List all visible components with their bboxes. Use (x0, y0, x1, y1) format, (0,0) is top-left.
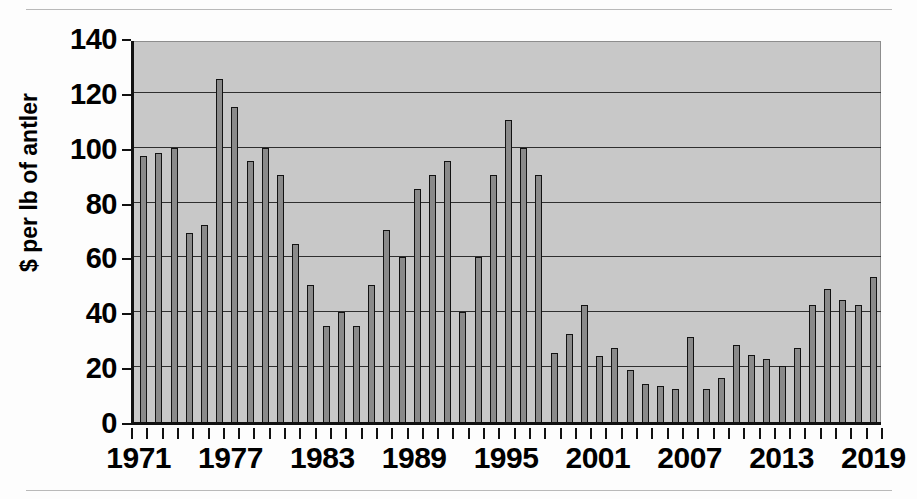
x-tick (529, 428, 531, 439)
bar[interactable] (277, 175, 284, 422)
bar[interactable] (186, 233, 193, 422)
y-tick-140 (122, 39, 131, 41)
bar-slot (318, 41, 333, 422)
bar[interactable] (566, 334, 573, 422)
x-axis-labels: 197119771983198919952001200720132019 (131, 441, 881, 485)
bar[interactable] (748, 355, 755, 422)
bar[interactable] (855, 305, 862, 422)
bar[interactable] (414, 189, 421, 422)
x-tick (361, 428, 363, 439)
bar[interactable] (611, 348, 618, 422)
x-tick (866, 428, 868, 439)
bar-slot (546, 41, 561, 422)
bar[interactable] (581, 305, 588, 422)
bar[interactable] (794, 348, 801, 422)
bar[interactable] (383, 230, 390, 422)
x-tick (131, 428, 133, 439)
bar[interactable] (596, 356, 603, 422)
bar[interactable] (763, 359, 770, 422)
bar[interactable] (824, 289, 831, 422)
bar[interactable] (672, 389, 679, 422)
bar[interactable] (870, 277, 877, 422)
bar[interactable] (262, 148, 269, 422)
bar-slot (151, 41, 166, 422)
bar[interactable] (247, 161, 254, 422)
x-tick (437, 428, 439, 439)
bar[interactable] (809, 305, 816, 422)
x-tick (514, 428, 516, 439)
bar[interactable] (444, 161, 451, 422)
x-tick (881, 428, 883, 439)
bar[interactable] (718, 378, 725, 422)
bar-slot (212, 41, 227, 422)
bar-slot (486, 41, 501, 422)
bar[interactable] (627, 370, 634, 422)
bar[interactable] (353, 326, 360, 422)
bar[interactable] (687, 337, 694, 422)
bar-slot (197, 41, 212, 422)
bar-slot (501, 41, 516, 422)
bar[interactable] (338, 312, 345, 422)
bar[interactable] (368, 285, 375, 422)
x-tick-label-2001: 2001 (565, 441, 630, 475)
bar[interactable] (490, 175, 497, 422)
bar-slot (699, 41, 714, 422)
bar-slot (516, 41, 531, 422)
bar[interactable] (535, 175, 542, 422)
bar-slot (349, 41, 364, 422)
bar-slot (638, 41, 653, 422)
bar[interactable] (703, 389, 710, 422)
bar[interactable] (216, 79, 223, 422)
bar[interactable] (429, 175, 436, 422)
bar[interactable] (642, 384, 649, 422)
bar-slot (379, 41, 394, 422)
y-tick-60 (122, 258, 131, 260)
bar[interactable] (733, 345, 740, 422)
x-tick-label-2019: 2019 (841, 441, 906, 475)
bar[interactable] (657, 386, 664, 422)
x-tick-label-2013: 2013 (749, 441, 814, 475)
y-tick-label-80: 80 (86, 188, 117, 221)
bar[interactable] (839, 300, 846, 422)
x-tick-label-1983: 1983 (290, 441, 355, 475)
x-tick (162, 428, 164, 439)
chart-screenshot: $ per lb of antler 020406080100120140 19… (0, 0, 917, 499)
x-tick (575, 428, 577, 439)
x-tick (483, 428, 485, 439)
bar[interactable] (551, 353, 558, 422)
x-tick (407, 428, 409, 439)
x-tick (391, 428, 393, 439)
y-tick-label-100: 100 (70, 133, 117, 166)
x-tick (560, 428, 562, 439)
bar[interactable] (459, 312, 466, 422)
bar[interactable] (155, 153, 162, 422)
bar[interactable] (475, 257, 482, 422)
bar[interactable] (323, 326, 330, 422)
x-tick (299, 428, 301, 439)
x-tick (330, 428, 332, 439)
y-tick-80 (122, 204, 131, 206)
y-axis-labels: 020406080100120140 (0, 41, 131, 425)
x-tick (682, 428, 684, 439)
bar-slot (303, 41, 318, 422)
x-tick (146, 428, 148, 439)
y-tick-label-60: 60 (86, 242, 117, 275)
bar[interactable] (292, 244, 299, 422)
bar[interactable] (307, 285, 314, 422)
bar-slot (136, 41, 151, 422)
bar[interactable] (201, 225, 208, 422)
bar[interactable] (140, 156, 147, 422)
bar-slot (334, 41, 349, 422)
bar[interactable] (399, 257, 406, 422)
bar[interactable] (779, 366, 786, 422)
bar-slot (470, 41, 485, 422)
x-tick (759, 428, 761, 439)
bar[interactable] (171, 148, 178, 422)
bar[interactable] (231, 107, 238, 422)
x-tick (835, 428, 837, 439)
bar[interactable] (520, 148, 527, 422)
x-tick (820, 428, 822, 439)
bar[interactable] (505, 120, 512, 422)
y-tick-label-140: 140 (70, 23, 117, 56)
bar-slot (790, 41, 805, 422)
